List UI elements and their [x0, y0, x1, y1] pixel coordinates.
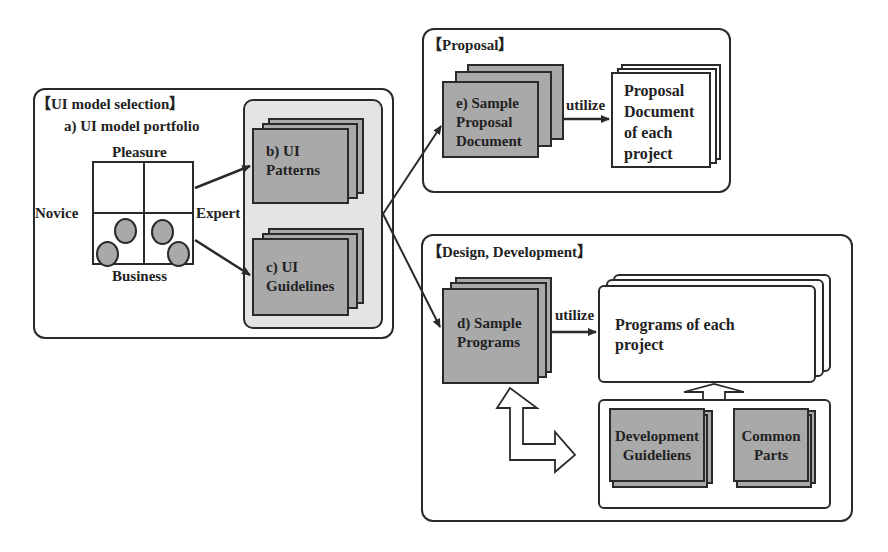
hollow-bidirectional-arrow-icon: [497, 388, 575, 472]
arrow-portfolio-to-guidelines: [195, 240, 250, 275]
connector-arrows: [0, 0, 888, 552]
arrow-panel-to-programs: [383, 214, 440, 327]
hollow-arrow-up-icon: [684, 384, 744, 399]
arrow-panel-to-proposal: [383, 126, 441, 214]
arrow-portfolio-to-patterns: [195, 166, 250, 188]
